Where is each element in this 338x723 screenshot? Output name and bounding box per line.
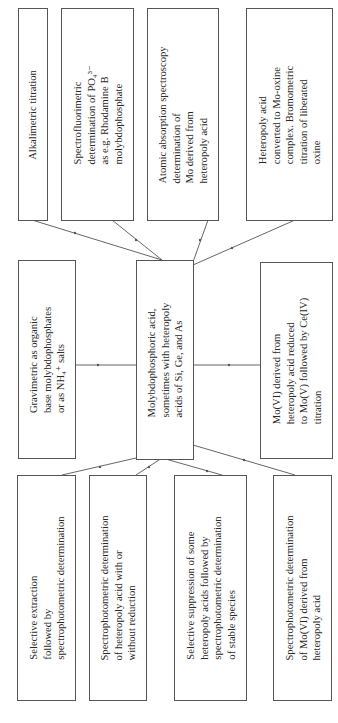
box-spectrophotometric-heteropoly: Spectrophotometric determination of hete…: [89, 475, 147, 701]
center-box-molybdophosphoric-acid: Molybdophosphoric acid, sometimes with h…: [136, 260, 194, 460]
box-spectrofluorimetric: Spectrofluorimetric determination of PO₄…: [61, 8, 134, 221]
box-text: Atomic absorption spectroscopy determina…: [156, 46, 210, 183]
box-selective-extraction: Selective extraction followed by spectro…: [17, 475, 76, 701]
box-text: Alkalimetric titration: [26, 70, 40, 160]
box-mo-oxine-bromometric: Heteropoly acid converted to Mo-oxine co…: [246, 8, 333, 221]
box-text: Spectrofluorimetric determination of PO₄…: [70, 65, 124, 164]
box-spectrophotometric-movi: Spectrophotometric determination of Mo(V…: [273, 475, 332, 701]
center-text: Molybdophosphoric acid, sometimes with h…: [145, 303, 186, 418]
box-text: Spectrophotometric determination of hete…: [98, 515, 139, 660]
box-gravimetric: Gravimetric as organic base molybdophosp…: [18, 260, 76, 459]
box-text: Selective suppression of some heteropoly…: [183, 516, 237, 659]
box-alkalimetric-titration: Alkalimetric titration: [18, 8, 48, 221]
box-selective-suppression: Selective suppression of some heteropoly…: [174, 475, 247, 701]
box-ceriv-titration: Mo(VI) derived from heteropoly acid redu…: [260, 262, 333, 459]
box-text: Spectrophotometric determination of Mo(V…: [282, 515, 323, 660]
box-text: Mo(VI) derived from heteropoly acid redu…: [269, 297, 323, 424]
box-atomic-absorption: Atomic absorption spectroscopy determina…: [147, 8, 219, 221]
box-text: Heteropoly acid converted to Mo-oxine co…: [256, 65, 324, 163]
box-text: Selective extraction followed by spectro…: [26, 516, 67, 659]
box-text: Gravimetric as organic base molybdophosp…: [27, 306, 68, 412]
